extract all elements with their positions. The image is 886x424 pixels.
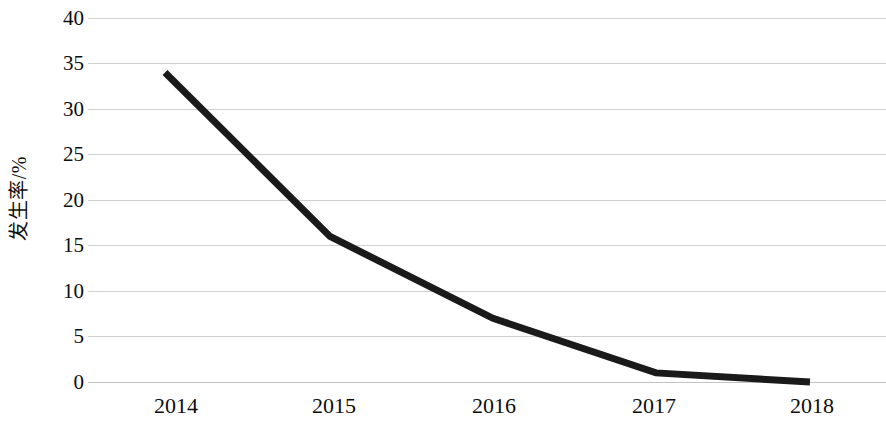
y-tick-0: 0: [38, 372, 84, 393]
x-tick-2015: 2015: [274, 392, 394, 421]
series-plot: [88, 0, 886, 424]
line-chart: 发生率/% 40 35 30 25 20 15 10 5 0 2014 2015…: [0, 0, 886, 424]
y-tick-30: 30: [38, 99, 84, 120]
x-tick-2017: 2017: [594, 392, 714, 421]
x-axis-tick-labels: 2014 2015 2016 2017 2018: [0, 392, 886, 424]
y-tick-40: 40: [38, 8, 84, 29]
y-axis-title: 发生率/%: [0, 0, 34, 396]
plot-area: [88, 0, 886, 424]
x-tick-2014: 2014: [116, 392, 236, 421]
y-tick-20: 20: [38, 190, 84, 211]
x-tick-2018: 2018: [752, 392, 872, 421]
y-tick-35: 35: [38, 53, 84, 74]
series-line-incidence: [165, 73, 810, 382]
y-tick-15: 15: [38, 235, 84, 256]
y-axis-title-text: 发生率/%: [3, 156, 32, 241]
y-axis-tick-labels: 40 35 30 25 20 15 10 5 0: [32, 0, 84, 424]
y-tick-10: 10: [38, 281, 84, 302]
y-tick-5: 5: [38, 326, 84, 347]
y-tick-25: 25: [38, 144, 84, 165]
x-tick-2016: 2016: [434, 392, 554, 421]
